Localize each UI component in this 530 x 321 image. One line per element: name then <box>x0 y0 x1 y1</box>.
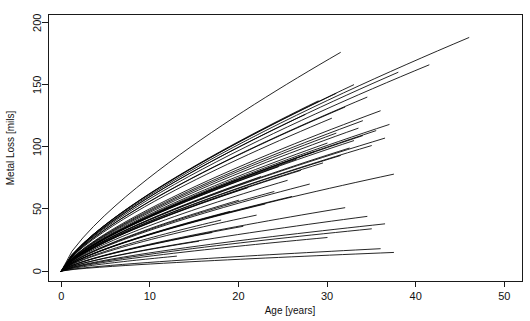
x-tick-label: 30 <box>321 290 333 302</box>
y-tick-label: 50 <box>31 203 43 215</box>
y-tick-label: 100 <box>31 138 43 156</box>
y-tick-label: 200 <box>31 14 43 32</box>
metal-loss-vs-age-chart: 01020304050050100150200 Age [years] Meta… <box>0 0 530 321</box>
y-tick-label: 150 <box>31 76 43 94</box>
x-tick-label: 50 <box>498 290 510 302</box>
y-tick-label: 0 <box>31 268 43 274</box>
x-tick-label: 40 <box>410 290 422 302</box>
x-axis-title: Age [years] <box>265 305 316 316</box>
chart-page: 01020304050050100150200 Age [years] Meta… <box>0 0 530 321</box>
y-axis-title: Metal Loss [mils] <box>5 111 16 186</box>
x-tick-label: 0 <box>58 290 64 302</box>
x-tick-label: 10 <box>144 290 156 302</box>
x-tick-label: 20 <box>232 290 244 302</box>
